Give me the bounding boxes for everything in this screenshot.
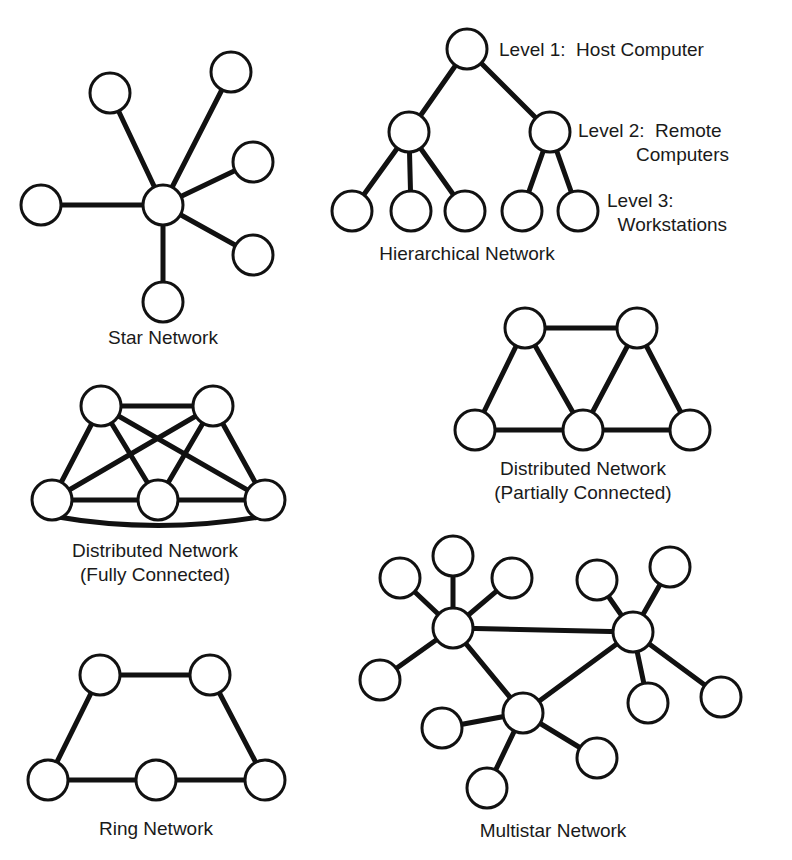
computer-node xyxy=(245,480,285,520)
level-label: Level 1: Host Computer xyxy=(499,39,705,60)
diagram-caption: Ring Network xyxy=(99,818,214,839)
multistar-network-diagram: Multistar Network xyxy=(360,536,741,841)
computer-node xyxy=(447,29,487,69)
fully-connected-distributed-network-diagram: Distributed Network(Fully Connected) xyxy=(32,386,285,585)
partially-connected-distributed-network-diagram: Distributed Network(Partially Connected) xyxy=(455,308,710,503)
computer-node xyxy=(90,73,130,113)
computer-node xyxy=(193,386,233,426)
computer-node xyxy=(558,191,598,231)
level-label: Workstations xyxy=(607,214,727,235)
hierarchical-network-diagram: Hierarchical NetworkLevel 1: Host Comput… xyxy=(332,29,729,264)
diagram-caption: (Fully Connected) xyxy=(80,564,230,585)
computer-node xyxy=(650,547,690,587)
diagram-caption: Star Network xyxy=(108,327,218,348)
computer-node xyxy=(136,760,176,800)
computer-node xyxy=(670,410,710,450)
connection-line xyxy=(163,72,231,205)
computer-node xyxy=(422,708,462,748)
computer-node xyxy=(433,608,473,648)
computer-node xyxy=(613,612,653,652)
computer-node xyxy=(360,660,400,700)
computer-node xyxy=(502,191,542,231)
ring-network-diagram: Ring Network xyxy=(28,655,285,839)
diagram-caption: Distributed Network xyxy=(72,540,238,561)
computer-node xyxy=(211,52,251,92)
level-label: Computers xyxy=(578,144,729,165)
diagram-caption: Hierarchical Network xyxy=(379,243,555,264)
computer-node xyxy=(233,142,273,182)
computer-node xyxy=(143,185,183,225)
computer-node xyxy=(505,308,545,348)
level-label: Level 3: xyxy=(607,190,674,211)
computer-node xyxy=(701,677,741,717)
computer-node xyxy=(233,235,273,275)
computer-node xyxy=(617,308,657,348)
computer-node xyxy=(492,558,532,598)
computer-node xyxy=(380,558,420,598)
computer-node xyxy=(190,655,230,695)
computer-node xyxy=(628,683,668,723)
level-label: Level 2: Remote xyxy=(578,120,722,141)
computer-node xyxy=(389,112,429,152)
computer-node xyxy=(455,410,495,450)
computer-node xyxy=(530,112,570,152)
computer-node xyxy=(332,191,372,231)
computer-node xyxy=(32,480,72,520)
diagram-caption: Distributed Network xyxy=(500,458,666,479)
computer-node xyxy=(391,191,431,231)
computer-node xyxy=(503,693,543,733)
computer-node xyxy=(577,560,617,600)
diagram-caption: (Partially Connected) xyxy=(494,482,671,503)
computer-node xyxy=(467,768,507,808)
computer-node xyxy=(28,760,68,800)
network-topologies-figure: Star Network Hierarchical NetworkLevel 1… xyxy=(0,0,792,860)
diagram-caption: Multistar Network xyxy=(480,820,627,841)
computer-node xyxy=(143,282,183,322)
computer-node xyxy=(445,191,485,231)
computer-node xyxy=(81,386,121,426)
connection-line xyxy=(453,628,633,632)
computer-node xyxy=(577,738,617,778)
computer-node xyxy=(433,536,473,576)
computer-node xyxy=(21,185,61,225)
computer-node xyxy=(80,655,120,695)
computer-node xyxy=(245,760,285,800)
computer-node xyxy=(563,410,603,450)
star-network-diagram: Star Network xyxy=(21,52,273,348)
computer-node xyxy=(138,480,178,520)
